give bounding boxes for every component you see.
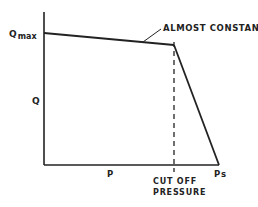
- ps-label: Ps: [214, 169, 227, 179]
- annotation-leader-line: [143, 29, 161, 42]
- qmax-label: Qmax: [9, 29, 37, 41]
- cutoff-drop-curve: [174, 45, 219, 165]
- qmax-label-sub: max: [18, 32, 38, 41]
- annotation-almost-constant: ALMOST CONSTANT: [163, 23, 258, 33]
- x-axis-label: P: [107, 169, 113, 179]
- cutoff-label-line1: CUT OFF: [153, 177, 197, 186]
- qmax-label-main: Q: [9, 29, 17, 39]
- diagram-canvas: ALMOST CONSTANT Qmax Q P Ps CUT OFF PRES…: [0, 0, 258, 207]
- constant-flow-curve: [44, 33, 174, 45]
- y-axis-label: Q: [32, 96, 40, 106]
- cutoff-label-line2: PRESSURE: [153, 188, 206, 197]
